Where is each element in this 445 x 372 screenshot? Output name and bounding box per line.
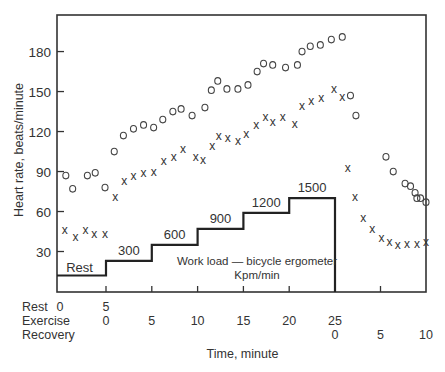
cross-marker: x [62, 223, 68, 237]
cross-marker: x [280, 110, 286, 124]
circle-marker [170, 108, 176, 115]
circle-marker [178, 106, 184, 113]
cross-marker: x [369, 222, 375, 236]
circle-marker [294, 62, 300, 69]
circle-marker [235, 86, 241, 93]
cross-marker: x [318, 91, 324, 105]
cross-marker: x [378, 231, 384, 245]
circle-marker [270, 62, 276, 69]
cross-marker: x [112, 190, 118, 204]
circle-marker [261, 60, 267, 67]
circle-marker [339, 34, 345, 41]
circle-marker [328, 36, 334, 43]
cross-marker: x [360, 211, 366, 225]
circle-marker [254, 68, 260, 75]
x-tick-label: 10 [191, 314, 205, 328]
cross-marker: x [243, 127, 249, 141]
x-tick-label: 5 [103, 300, 110, 314]
circle-marker [92, 170, 98, 177]
cross-marker: x [299, 99, 305, 113]
cross-marker: x [171, 150, 177, 164]
workload-step-label: Rest [66, 260, 93, 275]
data-points: xxxxxxxxxxxxxxxxxxxxxxxxxxxxxxxxxxxxxxxx [62, 34, 429, 252]
circle-marker [353, 112, 359, 119]
circle-marker [208, 87, 214, 94]
circle-marker [111, 148, 117, 155]
y-axis-ticks: 306090120150180 [28, 45, 64, 260]
cross-marker: x [130, 169, 136, 183]
cross-marker: x [102, 227, 108, 241]
cross-marker: x [235, 134, 241, 148]
cross-marker: x [200, 153, 206, 167]
circle-marker [347, 92, 353, 99]
cross-marker: x [270, 115, 276, 129]
x-tick-label: 20 [282, 314, 296, 328]
cross-marker: x [414, 237, 420, 251]
cross-marker: x [180, 142, 186, 156]
circle-marker [245, 82, 251, 89]
x-row-label-exercise: Exercise [22, 314, 70, 328]
cross-marker: x [345, 161, 351, 175]
circle-marker [120, 132, 126, 139]
circle-marker [63, 172, 69, 179]
workload-caption: Work load — bicycle ergometer [177, 255, 337, 267]
workload-step-label: 1500 [298, 180, 327, 195]
x-tick-label: 0 [103, 314, 110, 328]
cross-marker: x [161, 154, 167, 168]
cross-marker: x [82, 223, 88, 237]
cross-marker: x [292, 117, 298, 131]
cross-marker: x [225, 131, 231, 145]
circle-marker [141, 122, 147, 129]
y-tick-label: 30 [36, 245, 51, 260]
y-tick-label: 60 [36, 205, 51, 220]
x-tick-label: 0 [57, 300, 64, 314]
y-tick-label: 180 [28, 45, 51, 60]
workload-step-line: Rest30060090012001500Work load — bicycle… [57, 180, 337, 292]
plot-frame [57, 15, 426, 292]
x-tick-label: 10 [419, 328, 433, 342]
y-axis-label: Heart rate, beats/minute [12, 83, 26, 217]
workload-unit: Kpm/min [234, 269, 279, 281]
circle-marker [151, 124, 157, 131]
y-tick-label: 120 [28, 125, 51, 140]
cross-marker: x [121, 174, 127, 188]
circle-marker [70, 186, 76, 193]
circle-marker [215, 78, 221, 85]
cross-marker: x [262, 110, 268, 124]
x-tick-label: 15 [236, 314, 250, 328]
cross-marker: x [216, 129, 222, 143]
cross-marker: x [352, 190, 358, 204]
y-tick-label: 90 [36, 165, 51, 180]
circle-marker [307, 43, 313, 50]
x-row-label-rest: Rest [22, 300, 48, 314]
x-axis-label: Time, minute [0, 347, 445, 361]
cross-marker: x [141, 166, 147, 180]
circle-marker [160, 116, 166, 123]
circle-marker [84, 172, 90, 179]
circle-marker [418, 195, 424, 202]
x-axis-ticks [106, 286, 381, 292]
circle-marker [299, 48, 305, 55]
circle-marker [130, 126, 136, 133]
workload-step-label: 900 [210, 211, 232, 226]
x-tick-label: 0 [332, 328, 339, 342]
circle-marker [189, 112, 195, 119]
cross-marker: x [423, 235, 429, 249]
cross-marker: x [73, 230, 79, 244]
circle-marker [317, 42, 323, 49]
y-tick-label: 150 [28, 85, 51, 100]
cross-marker: x [331, 82, 337, 96]
cross-marker: x [209, 139, 215, 153]
circle-marker [383, 154, 389, 161]
cross-marker: x [404, 237, 410, 251]
circle-marker [202, 104, 208, 111]
circle-marker [102, 184, 108, 191]
cross-marker: x [308, 94, 314, 108]
workload-step-label: 300 [118, 243, 140, 258]
circle-marker [390, 168, 396, 175]
cross-marker: x [253, 118, 259, 132]
cross-marker: x [395, 238, 401, 252]
workload-step-label: 600 [164, 227, 186, 242]
x-row-label-recovery: Recovery [22, 328, 75, 342]
cross-marker: x [339, 90, 345, 104]
